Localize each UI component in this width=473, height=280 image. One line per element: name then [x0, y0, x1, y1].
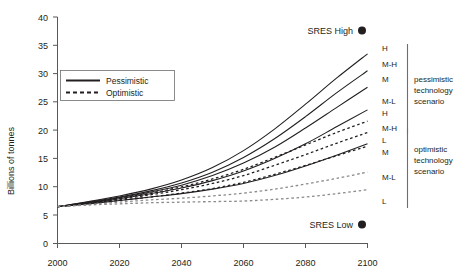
curve-optimistic-h	[58, 121, 368, 207]
curve-label-opt-m: M	[382, 148, 389, 157]
emissions-scenarios-chart: Billions of tonnes	[0, 0, 473, 280]
y-tick-label: 5	[43, 211, 48, 221]
y-tick-label: 35	[38, 41, 48, 51]
x-tick-label: 2100	[357, 258, 377, 268]
curve-label-pess-mh: M-H	[382, 60, 397, 69]
optimistic-group-line-3: scenario	[414, 167, 445, 176]
y-tick-label: 10	[38, 182, 48, 192]
curve-end-labels: H M-H M M-L H M-H L M M-L L	[382, 44, 397, 206]
curve-label-pess-m: M	[382, 75, 389, 84]
curve-label-pess-ml: M-L	[382, 97, 396, 106]
curve-optimistic-m-h	[58, 133, 368, 207]
y-tick-label: 15	[38, 154, 48, 164]
x-tick-labels: 2000 2020 2040 2060 2080 2100	[47, 258, 377, 268]
curve-label-opt-mh: M-H	[382, 124, 397, 133]
x-tick-label: 2040	[171, 258, 191, 268]
optimistic-group-line-1: optimistic	[414, 145, 447, 154]
curve-label-opt-h: H	[382, 109, 388, 118]
optimistic-group-line-2: technology	[414, 156, 453, 165]
y-tick-label: 0	[43, 239, 48, 249]
curve-optimistic-m	[58, 146, 368, 207]
curve-label-opt-ml: M-L	[382, 173, 396, 182]
x-tick-label: 2060	[233, 258, 253, 268]
legend-label-pessimistic: Pessimistic	[106, 76, 149, 86]
x-tick-label: 2000	[47, 258, 67, 268]
curve-label-pess-h: H	[382, 44, 388, 53]
y-tick-label: 25	[38, 97, 48, 107]
sres-low-label: SRES Low	[309, 220, 353, 230]
y-tick-label: 40	[38, 13, 48, 23]
curve-pessimistic-m-l	[58, 110, 368, 207]
x-tick-label: 2080	[295, 258, 315, 268]
pessimistic-group-line-2: technology	[414, 86, 453, 95]
y-tick-labels: 40 35 30 25 20 15 10 5 0	[38, 13, 48, 250]
y-tick-label: 20	[38, 126, 48, 136]
pessimistic-group-line-3: scenario	[414, 97, 445, 106]
sres-low-dot	[358, 221, 366, 229]
sres-high-annotation: SRES High	[307, 26, 366, 36]
sres-low-annotation: SRES Low	[309, 220, 366, 230]
legend: Pessimistic Optimistic	[61, 71, 175, 101]
x-tick-label: 2020	[109, 258, 129, 268]
group-labels: pessimistic technology scenario optimist…	[414, 75, 453, 176]
y-axis-title: Billions of tonnes	[6, 126, 16, 195]
curve-label-pess-l: L	[382, 136, 387, 145]
legend-label-optimistic: Optimistic	[106, 88, 144, 98]
y-tick-label: 30	[38, 69, 48, 79]
sres-high-dot	[358, 27, 366, 35]
pessimistic-group-line-1: pessimistic	[414, 75, 453, 84]
x-tick-marks	[58, 244, 368, 249]
curve-label-opt-l: L	[382, 197, 387, 206]
curve-optimistic-l	[58, 190, 368, 207]
sres-high-label: SRES High	[307, 26, 353, 36]
y-tick-marks	[53, 17, 58, 244]
chart-figure: Billions of tonnes	[0, 0, 473, 280]
